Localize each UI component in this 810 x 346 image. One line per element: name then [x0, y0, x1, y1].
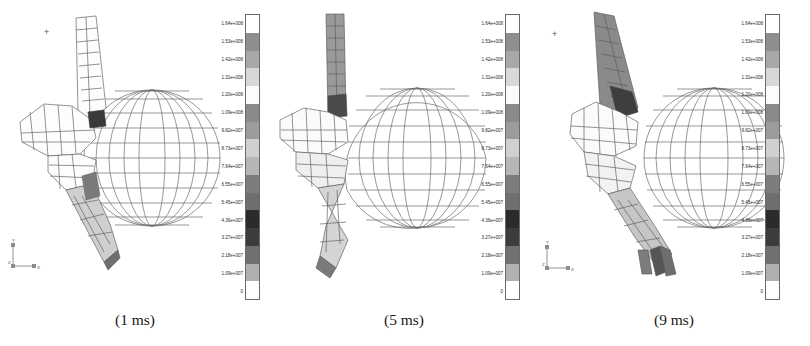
colorbar-swatch — [506, 51, 519, 69]
colorbar-swatch — [246, 51, 259, 69]
colorbar-tick-label: 8.73e+007 — [742, 146, 763, 151]
colorbar-tick-label: 6.55e+007 — [742, 181, 763, 186]
colorbar-swatch — [246, 175, 259, 193]
colorbar-swatch — [246, 193, 259, 211]
colorbar-tick-label: 4.36e+007 — [742, 217, 763, 222]
colorbar-3: 1.64e+0081.53e+0081.42e+0081.31e+0081.20… — [728, 14, 788, 300]
colorbar-tick-label: 1.31e+008 — [482, 74, 503, 79]
colorbar-tick-label: 1.42e+008 — [222, 56, 243, 61]
colorbar-tick-label: 1.31e+008 — [742, 74, 763, 79]
colorbar-tick-label: 1.64e+008 — [742, 20, 763, 25]
colorbar-strip-2 — [505, 14, 520, 300]
ball-wireframe-mesh-2 — [345, 88, 486, 229]
colorbar-tick-label: 6.55e+007 — [482, 181, 503, 186]
colorbar-swatch — [766, 104, 779, 122]
colorbar-tick-label: 8.73e+007 — [482, 146, 503, 151]
colorbar-tick-label: 7.64e+007 — [222, 163, 243, 168]
colorbar-swatch — [766, 228, 779, 246]
colorbar-tick-label: 1.20e+008 — [222, 92, 243, 97]
colorbar-swatch — [506, 68, 519, 86]
colorbar-tick-label: 8.73e+007 — [222, 146, 243, 151]
colorbar-tick-label: 9.82e+007 — [222, 128, 243, 133]
colorbar-swatch — [246, 33, 259, 51]
colorbar-tick-label: 6.55e+007 — [222, 181, 243, 186]
colorbar-swatch — [506, 210, 519, 228]
colorbar-tick-label: 1.31e+008 — [222, 74, 243, 79]
colorbar-swatch — [506, 104, 519, 122]
colorbar-swatch — [766, 68, 779, 86]
colorbar-swatch — [766, 281, 779, 299]
colorbar-tick-label: 5.45e+007 — [742, 199, 763, 204]
colorbar-swatch — [506, 175, 519, 193]
colorbar-tick-label: 1.09e+007 — [742, 271, 763, 276]
colorbar-tick-label: 4.36e+007 — [482, 217, 503, 222]
colorbar-tick-label: 1.42e+008 — [482, 56, 503, 61]
colorbar-swatch — [506, 157, 519, 175]
colorbar-swatch — [246, 139, 259, 157]
colorbar-swatch — [246, 15, 259, 33]
colorbar-swatch — [506, 264, 519, 282]
colorbar-tick-label: 0 — [240, 289, 243, 294]
colorbar-tick-label: 1.64e+008 — [222, 20, 243, 25]
colorbar-tick-label: 1.53e+008 — [222, 38, 243, 43]
colorbar-tick-label: 3.27e+007 — [742, 235, 763, 240]
colorbar-swatch — [246, 104, 259, 122]
ball-wireframe-mesh-1 — [84, 90, 220, 226]
colorbar-tick-label: 9.82e+007 — [742, 128, 763, 133]
colorbar-tick-label: 1.09e+007 — [482, 271, 503, 276]
colorbar-swatch — [766, 157, 779, 175]
colorbar-tick-label: 1.09e+008 — [222, 110, 243, 115]
colorbar-swatch — [506, 228, 519, 246]
foot-ankle-fe-mesh-2 — [280, 14, 348, 278]
colorbar-swatch — [506, 281, 519, 299]
colorbar-swatch — [766, 175, 779, 193]
colorbar-swatch — [246, 68, 259, 86]
colorbar-swatch — [766, 139, 779, 157]
colorbar-tick-label: 1.53e+008 — [742, 38, 763, 43]
colorbar-tick-label: 1.42e+008 — [742, 56, 763, 61]
axis-label-x-1: X — [37, 265, 40, 270]
colorbar-2: 1.64e+0081.53e+0081.42e+0081.31e+0081.20… — [468, 14, 528, 300]
colorbar-swatch — [766, 193, 779, 211]
colorbar-swatch — [246, 210, 259, 228]
colorbar-swatch — [766, 246, 779, 264]
colorbar-swatch — [246, 157, 259, 175]
colorbar-swatch — [506, 86, 519, 104]
colorbar-tick-label: 7.64e+007 — [482, 163, 503, 168]
panel-caption-2: (5 ms) — [270, 300, 538, 346]
colorbar-swatch — [246, 264, 259, 282]
colorbar-tick-label: 1.64e+008 — [482, 20, 503, 25]
colorbar-swatch — [506, 139, 519, 157]
colorbar-swatch — [506, 122, 519, 140]
colorbar-tick-label: 1.20e+008 — [742, 92, 763, 97]
figure-container: + Y X Z 1.64e+0081.53e+0081.42e+0081.31e… — [0, 0, 810, 346]
colorbar-labels-2: 1.64e+0081.53e+0081.42e+0081.31e+0081.20… — [467, 14, 503, 300]
colorbar-swatch — [246, 246, 259, 264]
colorbar-tick-label: 4.36e+007 — [222, 217, 243, 222]
origin-marker-icon-1: + — [44, 27, 49, 37]
colorbar-swatch — [766, 122, 779, 140]
axis-label-y-1: Y — [12, 238, 15, 243]
colorbar-tick-label: 3.27e+007 — [222, 235, 243, 240]
colorbar-tick-label: 2.18e+007 — [222, 253, 243, 258]
colorbar-tick-label: 7.64e+007 — [742, 163, 763, 168]
colorbar-strip-3 — [765, 14, 780, 300]
colorbar-tick-label: 1.53e+008 — [482, 38, 503, 43]
panel-caption-1: (1 ms) — [0, 300, 270, 346]
colorbar-strip-1 — [245, 14, 260, 300]
colorbar-swatch — [246, 228, 259, 246]
colorbar-tick-label: 1.09e+008 — [742, 110, 763, 115]
colorbar-tick-label: 1.09e+007 — [222, 271, 243, 276]
colorbar-swatch — [506, 33, 519, 51]
colorbar-tick-label: 1.09e+008 — [482, 110, 503, 115]
colorbar-swatch — [506, 15, 519, 33]
colorbar-swatch — [766, 33, 779, 51]
colorbar-tick-label: 3.27e+007 — [482, 235, 503, 240]
colorbar-tick-label: 2.18e+007 — [742, 253, 763, 258]
axis-label-z-1: Z — [8, 260, 11, 265]
colorbar-tick-label: 1.20e+008 — [482, 92, 503, 97]
colorbar-swatch — [766, 86, 779, 104]
colorbar-tick-label: 0 — [500, 289, 503, 294]
colorbar-tick-label: 0 — [760, 289, 763, 294]
colorbar-tick-label: 9.82e+007 — [482, 128, 503, 133]
